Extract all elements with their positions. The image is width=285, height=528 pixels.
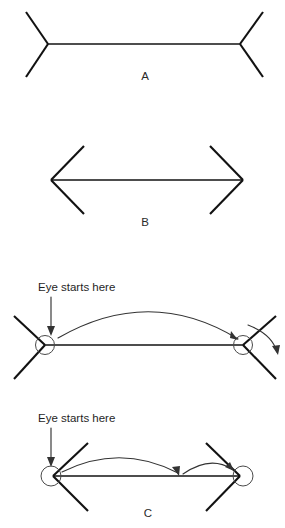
panel-a-fin-top-right xyxy=(240,12,263,44)
muller-lyer-figure: A B Eye starts here xyxy=(0,0,285,528)
panel-c-bottom-fin-top-right xyxy=(206,443,240,476)
panel-b-fin-top-left xyxy=(51,146,84,180)
panel-c-top-fin-bottom-left xyxy=(14,345,45,379)
panel-c-top: Eye starts here xyxy=(14,281,280,379)
panel-a-label: A xyxy=(141,70,149,82)
panel-c-bottom-fin-bottom-left xyxy=(53,476,88,511)
panel-c-bottom: Eye starts here C xyxy=(38,412,253,519)
figure-canvas: A B Eye starts here xyxy=(0,0,285,528)
panel-b: B xyxy=(51,146,243,228)
panel-c-bottom-corrective-arc xyxy=(183,463,232,474)
panel-c-top-fin-bottom-right xyxy=(243,345,276,379)
panel-c-top-fin-top-left xyxy=(14,316,45,345)
panel-c-bottom-callout-pointer-arrowhead xyxy=(47,457,55,467)
panel-b-fin-bottom-left xyxy=(51,180,84,214)
panel-c-top-callout-pointer-arrowhead xyxy=(47,326,55,336)
panel-c-top-overshoot-arrowhead xyxy=(272,345,280,355)
panel-b-fin-bottom-right xyxy=(210,180,243,214)
panel-a-fin-bottom-right xyxy=(240,44,263,77)
panel-b-fin-top-right xyxy=(210,146,243,180)
panel-a: A xyxy=(26,12,263,82)
panel-c-bottom-undershoot-arc xyxy=(62,458,178,473)
panel-a-fin-bottom-left xyxy=(26,44,48,77)
panel-c-bottom-fin-top-left xyxy=(53,443,88,476)
panel-a-fin-top-left xyxy=(26,12,48,44)
panel-c-top-main-saccade-arrowhead xyxy=(230,331,238,340)
panel-c-top-callout-label: Eye starts here xyxy=(38,281,115,293)
panel-c-label: C xyxy=(144,507,152,519)
panel-c-bottom-callout-label: Eye starts here xyxy=(38,412,115,424)
panel-c-top-main-saccade-arc xyxy=(58,312,238,339)
panel-b-label: B xyxy=(141,216,149,228)
